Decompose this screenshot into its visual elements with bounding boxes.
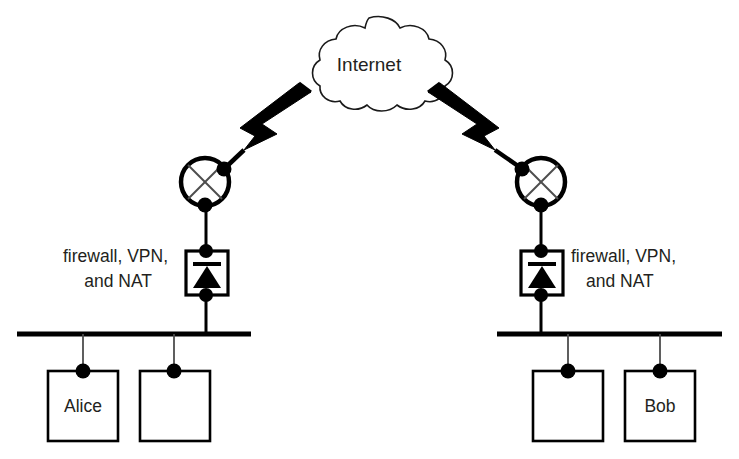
lightning-bolt-right-shape — [428, 83, 499, 150]
firewall-left-top-port-dot — [199, 244, 213, 258]
host-bob-label: Bob — [644, 396, 675, 416]
host-alice: Alice — [48, 364, 118, 442]
firewall-right-label: firewall, VPN, and NAT — [571, 246, 676, 291]
router-right-wan-port-dot — [515, 162, 530, 177]
host-alice-label: Alice — [64, 396, 102, 416]
host-bob: Bob — [625, 364, 695, 442]
firewall-left-label-line1: firewall, VPN, — [63, 246, 168, 266]
host-bob-port-dot — [653, 364, 668, 379]
lightning-bolt-left-shape — [240, 83, 311, 150]
firewall-left-bottom-port-dot — [199, 288, 213, 302]
router-left-wan-port-dot — [217, 162, 232, 177]
firewall-left-label-line2: and NAT — [84, 271, 152, 291]
host-left-unlabeled-box — [140, 371, 210, 441]
firewall-right-bottom-port-dot — [534, 288, 548, 302]
firewall-left — [186, 244, 228, 302]
firewall-left-label: firewall, VPN, and NAT — [63, 246, 168, 291]
network-diagram: Internet — [0, 0, 739, 459]
firewall-right-label-line1: firewall, VPN, — [571, 246, 676, 266]
host-right-unlabeled — [533, 364, 603, 442]
host-alice-port-dot — [76, 364, 91, 379]
firewall-right — [521, 244, 563, 302]
internet-cloud-label: Internet — [337, 54, 402, 75]
diagram-canvas: Internet — [0, 0, 739, 459]
host-left-unlabeled — [140, 364, 210, 442]
host-left-unlabeled-port-dot — [167, 364, 182, 379]
firewall-right-label-line2: and NAT — [586, 271, 654, 291]
firewall-right-top-port-dot — [534, 244, 548, 258]
internet-cloud: Internet — [313, 17, 453, 111]
host-right-unlabeled-port-dot — [561, 364, 576, 379]
wireless-link-right — [428, 83, 521, 168]
router-right — [515, 158, 566, 213]
router-left — [181, 158, 232, 213]
wireless-link-left — [225, 83, 311, 168]
host-right-unlabeled-box — [533, 371, 603, 441]
